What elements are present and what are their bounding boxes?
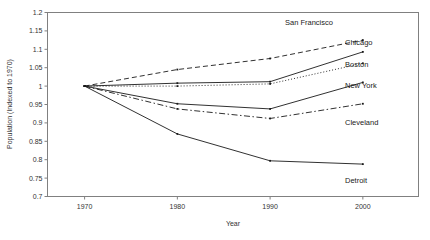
- data-point-marker: [84, 85, 86, 87]
- series-line-chicago: [85, 52, 363, 86]
- data-point-marker: [176, 103, 178, 105]
- data-point-marker: [176, 69, 178, 71]
- y-tick-label: 1.15: [29, 27, 43, 34]
- series-label-cleveland: Cleveland: [345, 118, 378, 127]
- data-point-marker: [269, 118, 271, 120]
- data-series-group: [84, 39, 364, 165]
- x-tick-label: 1990: [262, 203, 278, 210]
- x-tick-label: 1980: [170, 203, 186, 210]
- y-tick-label: 0.85: [29, 138, 43, 145]
- y-tick-label: 0.7: [33, 193, 43, 200]
- x-tick-label: 2000: [355, 203, 371, 210]
- series-label-boston: Boston: [345, 60, 368, 69]
- y-tick-label: 0.9: [33, 119, 43, 126]
- y-tick-label: 1.1: [33, 46, 43, 53]
- data-point-marker: [176, 82, 178, 84]
- data-point-marker: [269, 58, 271, 60]
- y-axis-title: Population (Indexed to 1970): [6, 59, 14, 149]
- y-tick-label: 1.05: [29, 64, 43, 71]
- data-point-marker: [176, 85, 178, 87]
- chart-container: 0.70.750.80.850.90.9511.051.11.151.2 197…: [0, 0, 430, 240]
- series-label-group: San FranciscoChicagoBostonNew YorkClevel…: [285, 18, 378, 185]
- x-tick-label: 1970: [77, 203, 93, 210]
- series-line-san-francisco: [85, 40, 363, 86]
- y-tick-label: 1: [39, 83, 43, 90]
- data-point-marker: [362, 103, 364, 105]
- series-label-detroit: Detroit: [345, 176, 368, 185]
- data-point-marker: [176, 133, 178, 135]
- data-point-marker: [269, 83, 271, 85]
- data-point-marker: [362, 51, 364, 53]
- data-point-marker: [362, 163, 364, 165]
- y-axis-ticks: 0.70.750.80.850.90.9511.051.11.151.2: [29, 9, 48, 200]
- series-label-san-francisco: San Francisco: [285, 18, 333, 27]
- series-label-new-york: New York: [345, 81, 377, 90]
- series-line-cleveland: [85, 86, 363, 118]
- x-axis-ticks: 1970198019902000: [77, 197, 371, 210]
- series-label-chicago: Chicago: [345, 38, 373, 47]
- data-point-marker: [269, 108, 271, 110]
- y-tick-label: 0.75: [29, 175, 43, 182]
- y-tick-label: 1.2: [33, 9, 43, 16]
- y-tick-label: 0.95: [29, 101, 43, 108]
- series-line-detroit: [85, 86, 363, 164]
- x-axis-title: Year: [226, 220, 241, 227]
- data-point-marker: [176, 108, 178, 110]
- y-tick-label: 0.8: [33, 156, 43, 163]
- population-index-line-chart: 0.70.750.80.850.90.9511.051.11.151.2 197…: [0, 0, 430, 240]
- series-line-new-york: [85, 82, 363, 108]
- data-point-marker: [269, 160, 271, 162]
- data-point-marker: [269, 81, 271, 83]
